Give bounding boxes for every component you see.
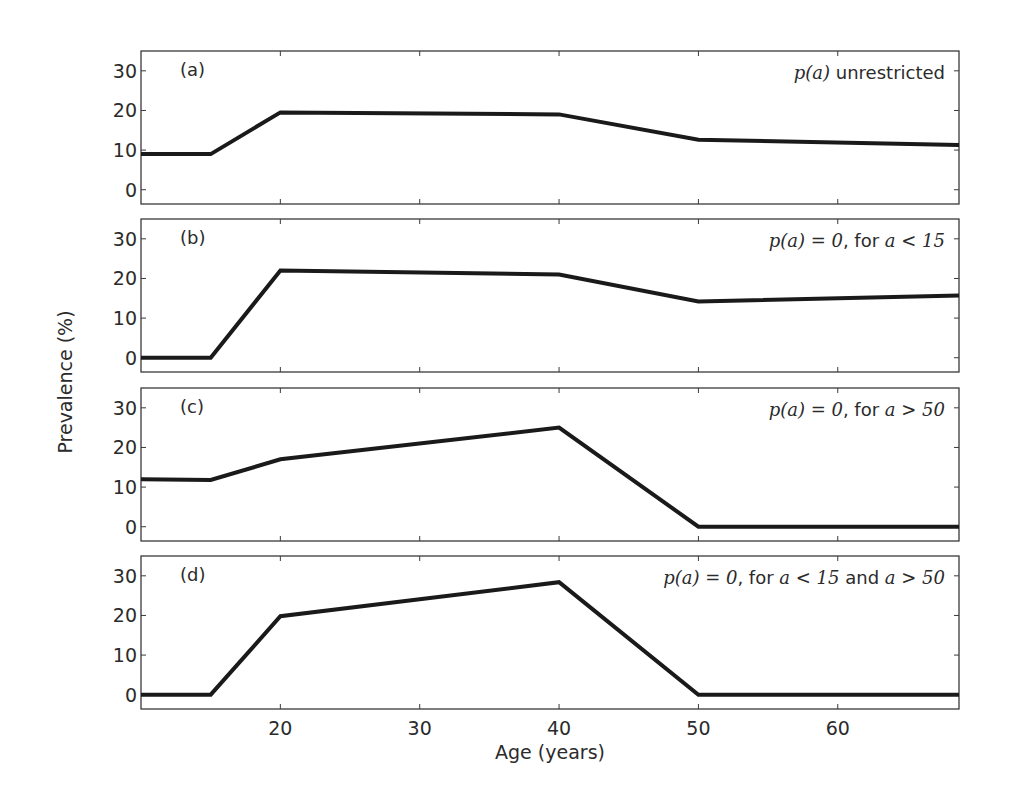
prevalence-line: [141, 271, 959, 358]
x-tick-label: 30: [408, 717, 432, 739]
y-tick-label: 20: [113, 99, 137, 121]
panel-annotation: p(a) = 0, for a < 15: [769, 230, 945, 251]
subplot-d: 0102030(d)p(a) = 0, for a < 15 and a > 5…: [113, 556, 959, 709]
prevalence-line: [141, 582, 959, 695]
panel-label: (d): [180, 564, 205, 585]
y-tick-label: 10: [113, 307, 137, 329]
x-tick-labels: 2030405060: [268, 717, 850, 739]
x-axis-label: Age (years): [495, 741, 605, 763]
panel-label: (c): [180, 396, 204, 417]
subplot-panels: 0102030(a)p(a) unrestricted0102030(b)p(a…: [113, 51, 959, 709]
subplot-c: 0102030(c)p(a) = 0, for a > 50: [113, 388, 959, 541]
panel-annotation: p(a) = 0, for a < 15 and a > 50: [663, 567, 945, 588]
y-tick-label: 10: [113, 644, 137, 666]
y-tick-label: 0: [125, 684, 137, 706]
y-tick-label: 30: [113, 565, 137, 587]
panel-annotation: p(a) unrestricted: [794, 62, 945, 83]
y-tick-label: 20: [113, 267, 137, 289]
y-tick-label: 20: [113, 604, 137, 626]
panel-label: (b): [180, 227, 205, 248]
y-tick-label: 20: [113, 436, 137, 458]
panel-annotation: p(a) = 0, for a > 50: [769, 399, 945, 420]
prevalence-line: [141, 428, 959, 527]
y-tick-label: 0: [125, 347, 137, 369]
x-tick-label: 60: [826, 717, 850, 739]
y-tick-label: 10: [113, 139, 137, 161]
x-tick-label: 20: [268, 717, 292, 739]
subplot-b: 0102030(b)p(a) = 0, for a < 15: [113, 219, 959, 372]
prevalence-line: [141, 112, 959, 154]
y-tick-label: 10: [113, 476, 137, 498]
panel-label: (a): [180, 59, 205, 80]
y-axis-label: Prevalence (%): [54, 310, 76, 453]
subplot-a: 0102030(a)p(a) unrestricted: [113, 51, 959, 204]
prevalence-figure: 0102030(a)p(a) unrestricted0102030(b)p(a…: [0, 0, 1009, 803]
y-tick-label: 30: [113, 60, 137, 82]
y-tick-label: 0: [125, 516, 137, 538]
y-tick-label: 30: [113, 228, 137, 250]
y-tick-label: 0: [125, 179, 137, 201]
x-tick-label: 40: [547, 717, 571, 739]
y-tick-label: 30: [113, 397, 137, 419]
x-tick-label: 50: [686, 717, 710, 739]
